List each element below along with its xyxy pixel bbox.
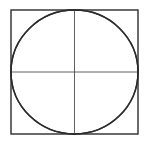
geometric-figure-canvas — [0, 0, 147, 146]
figure-svg — [0, 0, 147, 146]
background — [0, 0, 147, 146]
